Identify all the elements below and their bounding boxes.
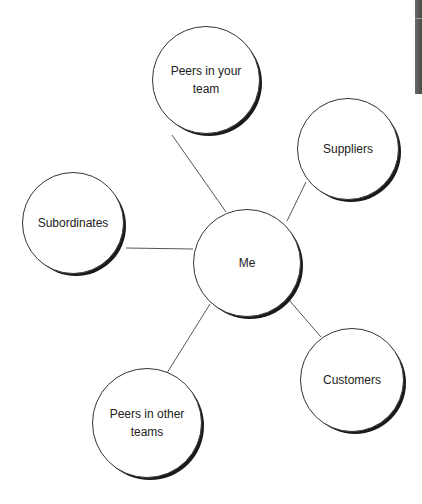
node-subordinates: Subordinates [22, 172, 124, 274]
node-label: Me [229, 254, 266, 272]
node-me: Me [193, 209, 301, 317]
edge-me-suppliers [287, 182, 306, 221]
node-label: Subordinates [28, 214, 119, 232]
node-suppliers: Suppliers [297, 98, 399, 200]
stakeholder-diagram: Peers in your team Suppliers Subordinate… [0, 0, 422, 504]
page-edge-bar [415, 0, 422, 94]
edge-me-peers-team [172, 135, 226, 212]
node-label: Suppliers [313, 140, 383, 158]
node-label: Peers in your team [153, 62, 259, 98]
node-label: Customers [313, 371, 391, 389]
node-label: Peers in other teams [93, 405, 201, 441]
node-customers: Customers [300, 328, 404, 432]
edge-me-subordinates [126, 248, 193, 249]
node-peers-in-other-teams: Peers in other teams [92, 368, 202, 478]
edge-me-customers [289, 300, 321, 337]
node-peers-in-your-team: Peers in your team [152, 26, 260, 134]
